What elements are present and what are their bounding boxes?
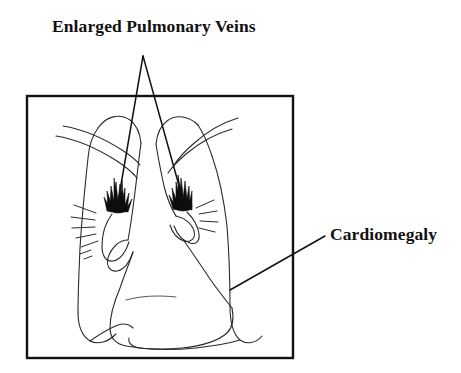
enlarged-cardiac-silhouette <box>110 241 233 349</box>
figure-canvas <box>0 0 461 373</box>
kerley-lines-left <box>71 205 98 259</box>
left-lung-field <box>78 116 141 342</box>
enlarged-vein-brush-left <box>104 178 132 213</box>
right-clavicle <box>168 118 238 173</box>
left-clavicle <box>56 126 140 178</box>
radiograph-border <box>27 96 293 358</box>
left-hilar-vessels <box>102 214 129 261</box>
kerley-lines-right <box>196 200 218 232</box>
chest-xray-figure: Enlarged Pulmonary Veins Cardiomegaly <box>0 0 461 373</box>
leader-cardiomegaly <box>230 236 325 290</box>
label-cardiomegaly: Cardiomegaly <box>330 226 437 244</box>
label-enlarged-pulmonary-veins: Enlarged Pulmonary Veins <box>52 18 256 36</box>
leader-enlarged-pulmonary-veins <box>117 56 183 208</box>
